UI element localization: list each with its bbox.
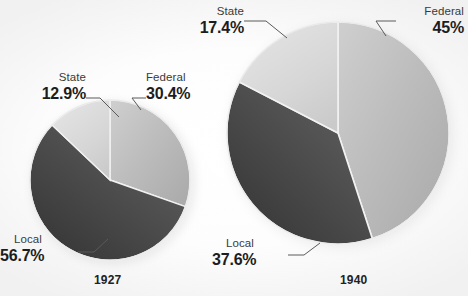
label-1940-federal-value: 45% <box>396 20 464 36</box>
label-1940-state-name: State <box>172 6 244 18</box>
pie-chart-1940 <box>215 11 467 261</box>
label-1927-local-name: Local <box>14 234 78 246</box>
label-1940-local: Local 37.6% <box>212 238 288 268</box>
label-1927-state-name: State <box>10 72 86 84</box>
chart-canvas: State 12.9% Federal 30.4% Local 56.7% 19… <box>0 0 468 296</box>
label-1940-federal-name: Federal <box>396 6 464 18</box>
year-label-1927: 1927 <box>94 273 122 287</box>
label-1927-local: Local 56.7% <box>0 234 78 264</box>
label-1940-local-value: 37.6% <box>212 252 288 268</box>
label-1927-federal-value: 30.4% <box>146 86 224 102</box>
label-1940-federal: Federal 45% <box>396 6 464 36</box>
label-1940-state: State 17.4% <box>172 6 244 36</box>
year-label-1940: 1940 <box>340 273 368 287</box>
label-1927-federal-name: Federal <box>146 72 224 84</box>
label-1940-state-value: 17.4% <box>172 20 244 36</box>
label-1927-local-value: 56.7% <box>0 248 78 264</box>
label-1940-local-name: Local <box>226 238 288 250</box>
label-1927-federal: Federal 30.4% <box>146 72 224 102</box>
label-1927-state-value: 12.9% <box>10 86 86 102</box>
label-1927-state: State 12.9% <box>10 72 86 102</box>
